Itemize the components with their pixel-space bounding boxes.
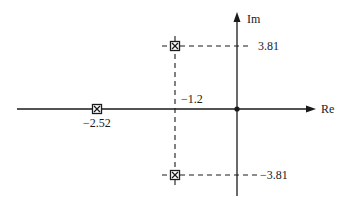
pole-marker-upper-icon: [171, 42, 180, 51]
origin-dot-icon: [234, 106, 239, 111]
real-axis-arrow-icon: [306, 106, 316, 113]
guide-lines: [162, 36, 258, 186]
real-pole-label: −2.52: [83, 116, 111, 130]
real-part-label: −1.2: [181, 92, 203, 106]
real-axis-label: Re: [321, 102, 334, 116]
imag-pos-label: 3.81: [258, 39, 279, 53]
imaginary-axis: [234, 12, 241, 196]
s-plane-diagram: Im Re 3.81 −3.81 −1.2 −2.52: [0, 0, 349, 202]
real-axis: [17, 106, 316, 113]
imag-axis-arrow-icon: [234, 12, 241, 22]
imag-axis-label: Im: [247, 12, 261, 26]
pole-marker-lower-icon: [171, 171, 180, 180]
imag-neg-label: −3.81: [260, 168, 288, 182]
pole-marker-real-icon: [93, 105, 102, 114]
